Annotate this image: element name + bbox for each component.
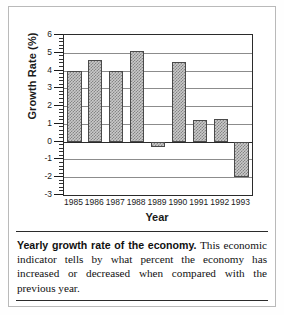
y-tick-label: 3 [36, 83, 52, 92]
bar [88, 60, 102, 142]
x-tick-label: 1990 [168, 198, 187, 207]
y-tick-label: -3 [36, 190, 52, 199]
y-tick-label: 6 [36, 30, 52, 39]
x-tick-label: 1985 [64, 198, 83, 207]
x-tick-label: 1993 [231, 198, 250, 207]
bar-chart: Growth Rate (%) 6543210-1-2-3 1985198619… [14, 12, 260, 224]
caption-divider-bottom [16, 300, 268, 301]
y-tick-major [54, 105, 63, 106]
bar [130, 51, 144, 142]
y-tick-major [54, 194, 63, 195]
y-tick-major [54, 34, 63, 35]
y-tick-major [54, 52, 63, 53]
x-tick-label: 1986 [85, 198, 104, 207]
plot-frame [63, 34, 253, 196]
bar [193, 120, 207, 141]
y-tick-major [54, 123, 63, 124]
bar [151, 142, 165, 147]
x-axis-label: Year [63, 211, 251, 223]
bar [172, 62, 186, 142]
x-tick-label: 1987 [106, 198, 125, 207]
caption-lead: Yearly growth rate of the economy. [17, 239, 197, 251]
y-tick-label: 2 [36, 101, 52, 110]
figure-card: Growth Rate (%) 6543210-1-2-3 1985198619… [0, 0, 284, 315]
bar [234, 142, 248, 178]
x-tick-label: 1992 [210, 198, 229, 207]
caption-divider-top [16, 231, 268, 232]
x-tick-label: 1989 [148, 198, 167, 207]
y-axis-tick-labels: 6543210-1-2-3 [36, 34, 52, 194]
y-tick-major [54, 141, 63, 142]
bar [109, 71, 123, 142]
y-tick-major [54, 70, 63, 71]
y-tick-label: 5 [36, 48, 52, 57]
bar-series [64, 35, 252, 195]
x-axis-tick-labels: 198519861987198819891990199119921993 [63, 198, 251, 210]
y-tick-major [54, 176, 63, 177]
bar [67, 71, 81, 142]
y-tick-major [54, 158, 63, 159]
figure-caption: Yearly growth rate of the economy. This … [17, 238, 267, 295]
y-tick-major [54, 87, 63, 88]
y-tick-label: 0 [36, 136, 52, 145]
x-tick-label: 1991 [189, 198, 208, 207]
x-tick-label: 1988 [127, 198, 146, 207]
y-tick-label: -2 [36, 172, 52, 181]
bar [214, 119, 228, 142]
y-tick-label: 1 [36, 119, 52, 128]
y-tick-label: 4 [36, 65, 52, 74]
y-axis-tick-marks [54, 34, 63, 194]
y-tick-label: -1 [36, 154, 52, 163]
